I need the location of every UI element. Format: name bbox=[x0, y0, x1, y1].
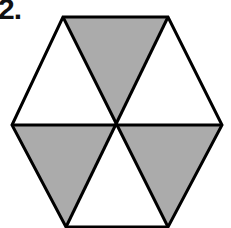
hexagon-figure bbox=[0, 0, 231, 228]
